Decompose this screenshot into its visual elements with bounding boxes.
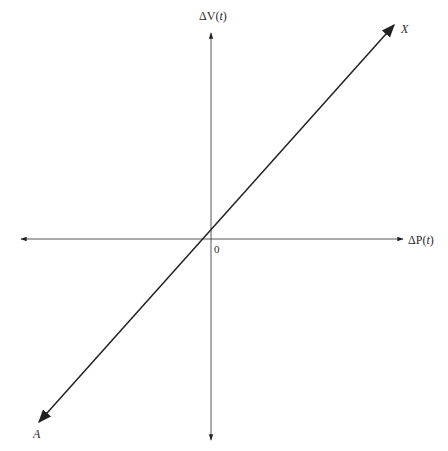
vertical-axis-label-prefix: ΔV(	[199, 9, 219, 23]
horizontal-axis-label-suffix: )	[430, 233, 434, 247]
line-upper-end-label: X	[401, 23, 408, 35]
origin-label: 0	[214, 244, 220, 255]
horizontal-axis-label: ΔP(t)	[408, 234, 434, 246]
diagonal-line-ax	[39, 25, 394, 422]
vertical-axis-label-suffix: )	[223, 9, 227, 23]
diagram-canvas	[0, 0, 448, 451]
vertical-axis-label: ΔV(t)	[199, 10, 227, 22]
line-lower-end-label: A	[33, 428, 40, 440]
horizontal-axis-label-prefix: ΔP(	[408, 233, 426, 247]
